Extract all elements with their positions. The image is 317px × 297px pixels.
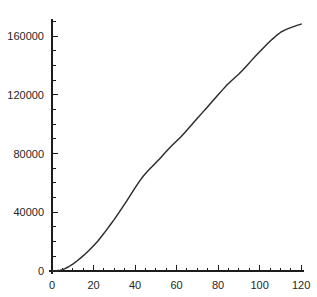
y-tick-label: 160000 — [7, 30, 44, 42]
x-tick-label: 80 — [212, 279, 224, 291]
x-tick-label: 120 — [292, 279, 310, 291]
line-chart-plot: 020406080100120 04000080000120000160000 — [0, 0, 317, 297]
x-tick-label: 0 — [49, 279, 55, 291]
y-axis-major-ticks — [52, 36, 58, 271]
x-axis-major-ticks — [52, 265, 301, 271]
x-axis-tick-labels: 020406080100120 — [49, 279, 310, 291]
x-tick-label: 100 — [250, 279, 268, 291]
data-series-line — [52, 24, 301, 271]
chart-container: 020406080100120 04000080000120000160000 — [0, 0, 317, 297]
y-axis-tick-labels: 04000080000120000160000 — [7, 30, 44, 277]
y-tick-label: 80000 — [13, 148, 44, 160]
y-tick-label: 0 — [38, 265, 44, 277]
y-tick-label: 40000 — [13, 206, 44, 218]
x-tick-label: 20 — [87, 279, 99, 291]
y-tick-label: 120000 — [7, 89, 44, 101]
x-tick-label: 60 — [170, 279, 182, 291]
x-tick-label: 40 — [129, 279, 141, 291]
